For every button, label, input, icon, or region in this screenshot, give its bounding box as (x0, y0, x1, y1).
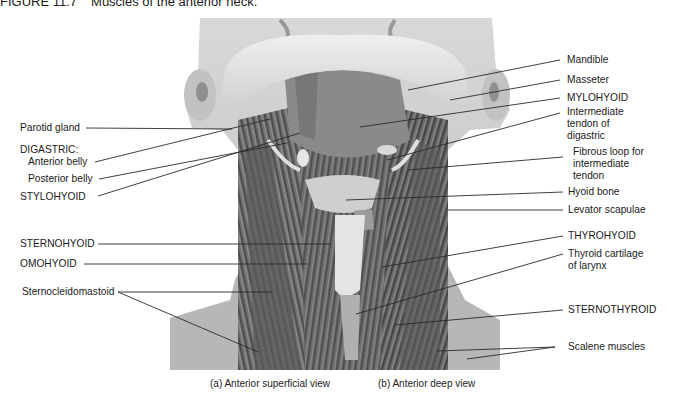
caption-anterior-deep: (b) Anterior deep view (378, 378, 475, 389)
label-omohyoid: OMOHYOID (20, 258, 77, 270)
label-sternocleidomastoid: Sternocleidomastoid (22, 286, 114, 298)
label-digastric: DIGASTRIC: (20, 144, 78, 156)
label-anterior-belly: Anterior belly (28, 156, 87, 168)
label-parotid-gland: Parotid gland (20, 122, 80, 134)
label-fibrous-loop-line2: intermediate (573, 158, 629, 170)
label-intermediate-tendon-line3: digastric (567, 130, 605, 142)
label-masseter: Masseter (567, 74, 609, 86)
label-hyoid-bone: Hyoid bone (568, 186, 620, 198)
label-thyroid-cartilage-line1: Thyroid cartilage (568, 248, 643, 260)
label-stylohyoid: STYLOHYOID (20, 191, 86, 203)
label-fibrous-loop-line1: Fibrous loop for (573, 146, 644, 158)
label-sternohyoid: STERNOHYOID (20, 238, 95, 250)
caption-anterior-superficial: (a) Anterior superficial view (210, 378, 330, 389)
hyoid-bone (305, 175, 380, 213)
label-mylohyoid: MYLOHYOID (567, 92, 628, 104)
label-scalene-muscles: Scalene muscles (568, 341, 645, 353)
label-intermediate-tendon-line2: tendon of (567, 118, 610, 130)
label-posterior-belly: Posterior belly (28, 173, 93, 185)
label-thyroid-cartilage-line2: of larynx (568, 260, 607, 272)
label-fibrous-loop-line3: tendon (573, 170, 604, 182)
label-intermediate-tendon-line1: Intermediate (567, 106, 624, 118)
label-sternothyroid: STERNOTHYROID (568, 304, 656, 316)
label-mandible: Mandible (567, 54, 608, 66)
label-levator-scapulae: Levator scapulae (568, 204, 646, 216)
label-thyrohyoid: THYROHYOID (568, 230, 636, 242)
